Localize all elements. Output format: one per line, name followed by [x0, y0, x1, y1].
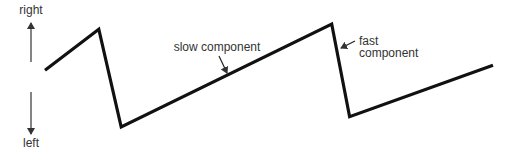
slow-component-label: slow component — [174, 40, 261, 54]
slow-component-pointer-icon — [219, 56, 227, 73]
right-direction-label: right — [19, 3, 43, 17]
nystagmus-diagram: right left slow component fast component — [0, 0, 511, 151]
diagram-svg: right left slow component fast component — [0, 0, 511, 151]
left-direction-label: left — [23, 136, 40, 150]
eye-position-trace — [45, 24, 493, 127]
fast-component-label-line2: component — [359, 46, 419, 60]
fast-component-pointer-icon — [341, 41, 355, 48]
